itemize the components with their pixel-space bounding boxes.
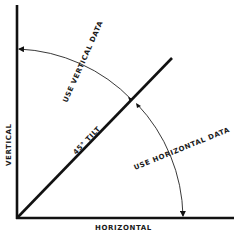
use-horizontal-data-label: USE HORIZONTAL DATA bbox=[133, 126, 231, 172]
tilt-line-label: 45° TILT bbox=[72, 125, 103, 156]
horizontal-axis-label: HORIZONTAL bbox=[95, 224, 152, 232]
vertical-axis-label: VERTICAL bbox=[5, 124, 13, 166]
use-vertical-data-label: USE VERTICAL DATA bbox=[62, 20, 105, 104]
tilt-diagram: VERTICAL HORIZONTAL 45° TILT USE VERTICA… bbox=[0, 0, 235, 233]
